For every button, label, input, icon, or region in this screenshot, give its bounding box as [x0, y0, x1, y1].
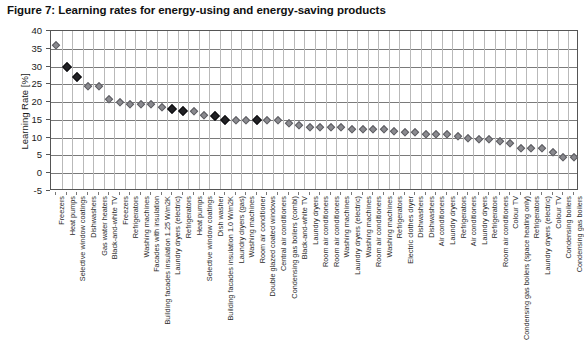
data-point	[190, 107, 198, 115]
gridline-vertical	[294, 31, 295, 189]
x-axis-tick-label: Air conditioners	[438, 196, 445, 246]
gridline-vertical	[442, 31, 443, 189]
gridline-vertical	[283, 31, 284, 189]
y-axis-tick-label: 30	[0, 60, 42, 71]
y-axis-tick-label: 5	[0, 149, 42, 160]
x-axis-tick-label: Dishwashers	[428, 196, 435, 238]
data-point	[475, 136, 483, 144]
gridline-vertical	[505, 31, 506, 189]
x-axis-tick-mark	[298, 192, 299, 195]
x-axis-tick-mark	[425, 192, 426, 195]
x-axis-tick-label: Double glazed coated windows	[269, 196, 276, 297]
data-point	[178, 106, 188, 116]
gridline-horizontal	[51, 120, 577, 121]
x-axis-tick-label: Laundry dryers (gas)	[238, 196, 245, 263]
data-point	[517, 144, 525, 152]
x-axis-tick-label: Condensing gas boilers (space heating on…	[523, 196, 530, 340]
x-axis-tick-label: Central air conditioners	[280, 196, 287, 271]
data-point	[411, 128, 419, 136]
plot-area	[50, 30, 578, 190]
gridline-vertical	[252, 31, 253, 189]
data-point	[158, 104, 166, 112]
gridline-vertical	[209, 31, 210, 189]
x-axis-tick-mark	[457, 192, 458, 195]
x-axis-tick-label: Colour TV	[512, 196, 519, 229]
x-axis-tick-label: Dish washer	[217, 196, 224, 236]
data-point	[538, 144, 546, 152]
x-axis-tick-mark	[235, 192, 236, 195]
x-axis-tick-mark	[288, 192, 289, 195]
x-axis-tick-mark	[340, 192, 341, 195]
gridline-vertical	[431, 31, 432, 189]
x-axis-tick-label: Washing machines	[248, 196, 255, 257]
x-axis-tick-label: Laundry dryers (electric)	[174, 196, 181, 275]
x-axis-tick-label: Laundry dryers (electric)	[354, 196, 361, 275]
y-axis-tick-label: 0	[0, 167, 42, 178]
x-axis-tick-label: Freezers	[58, 196, 65, 225]
gridline-vertical	[93, 31, 94, 189]
y-axis-tick-label: 10	[0, 131, 42, 142]
x-axis-tick-label: Washing machines	[343, 196, 350, 257]
chart-figure: Learning Rate [%] 4035302520151050-5 Fre…	[0, 22, 583, 364]
y-axis-tick-label: 25	[0, 78, 42, 89]
x-axis-tick-mark	[129, 192, 130, 195]
x-axis-labels: FreezersHeat pumpsSelective window coati…	[50, 192, 578, 364]
gridline-vertical	[463, 31, 464, 189]
gridline-vertical	[347, 31, 348, 189]
data-point	[390, 127, 398, 135]
x-axis-tick-label: Selective window coatings	[79, 196, 86, 281]
data-point	[200, 111, 208, 119]
gridline-vertical	[273, 31, 274, 189]
x-axis-tick-mark	[214, 192, 215, 195]
x-axis-tick-label: Colour TV	[555, 196, 562, 229]
x-axis-tick-mark	[446, 192, 447, 195]
x-axis-tick-mark	[520, 192, 521, 195]
x-axis-tick-label: Condensing boilers	[565, 196, 572, 258]
x-axis-tick-mark	[76, 192, 77, 195]
gridline-vertical	[526, 31, 527, 189]
gridline-vertical	[357, 31, 358, 189]
gridline-vertical	[241, 31, 242, 189]
data-point	[528, 144, 536, 152]
x-axis-tick-mark	[171, 192, 172, 195]
x-axis-tick-label: Gas water heaters	[101, 196, 108, 256]
x-axis-tick-label: Refrigerators	[132, 196, 139, 238]
gridline-vertical	[495, 31, 496, 189]
gridline-vertical	[220, 31, 221, 189]
gridline-vertical	[537, 31, 538, 189]
data-point	[242, 116, 250, 124]
x-axis-tick-label: Heat pumps	[69, 196, 76, 235]
gridline-horizontal	[51, 173, 577, 174]
data-point	[369, 125, 377, 133]
gridline-vertical	[114, 31, 115, 189]
gridline-vertical	[83, 31, 84, 189]
data-point	[338, 123, 346, 131]
y-axis-tick-label: -5	[0, 185, 42, 196]
gridline-vertical	[484, 31, 485, 189]
data-point	[252, 115, 262, 125]
x-axis-tick-label: Black-and-white TV	[301, 196, 308, 259]
x-axis-tick-mark	[119, 192, 120, 195]
data-point	[274, 116, 282, 124]
page-title: Figure 7: Learning rates for energy-usin…	[7, 4, 386, 16]
data-point	[167, 104, 177, 114]
gridline-vertical	[389, 31, 390, 189]
gridline-vertical	[368, 31, 369, 189]
x-axis-tick-mark	[414, 192, 415, 195]
x-axis-tick-label: Refrigerators	[396, 196, 403, 238]
gridline-vertical	[72, 31, 73, 189]
x-axis-tick-label: Laundry dryers (electric)	[544, 196, 551, 275]
gridline-vertical	[378, 31, 379, 189]
data-point	[295, 121, 303, 129]
x-axis-tick-label: Selective window coatings	[206, 196, 213, 281]
x-axis-tick-label: Laundry dryers	[481, 196, 488, 245]
x-axis-tick-label: Building facades insulation 1.0 W/m2K	[227, 196, 234, 321]
x-axis-tick-mark	[573, 192, 574, 195]
gridline-vertical	[125, 31, 126, 189]
data-point	[72, 72, 82, 82]
data-point	[380, 125, 388, 133]
gridline-vertical	[558, 31, 559, 189]
data-point	[116, 98, 124, 106]
x-axis-tick-label: Heat pumps	[196, 196, 203, 235]
x-axis-tick-mark	[393, 192, 394, 195]
